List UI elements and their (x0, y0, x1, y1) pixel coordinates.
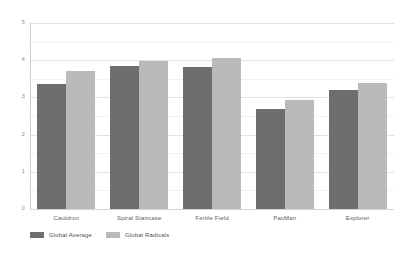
x-axis-line (30, 209, 394, 210)
legend-swatch-icon (106, 232, 120, 238)
bar-group: PacMan (248, 23, 321, 209)
bar-explorer-series-0[interactable] (329, 90, 358, 209)
x-axis-category-label: Fertile Field (195, 215, 228, 221)
bar-group: Fertile Field (176, 23, 249, 209)
x-axis-category-label: Cauldron (54, 215, 80, 221)
bar-group: Cauldron (30, 23, 103, 209)
bar-pacman-series-0[interactable] (256, 109, 285, 209)
legend-item-1[interactable]: Global Radicals (106, 232, 169, 238)
bar-explorer-series-1[interactable] (358, 83, 387, 209)
y-axis-tick-label: 3 (22, 95, 25, 101)
legend-label: Global Average (49, 232, 92, 238)
bar-group: Spiral Staircase (103, 23, 176, 209)
y-axis-tick-label: 4 (22, 57, 25, 63)
bar-fertile-field-series-1[interactable] (212, 58, 241, 209)
bar-spiral-staircase-series-1[interactable] (139, 61, 168, 209)
bars-layer: CauldronSpiral StaircaseFertile FieldPac… (30, 23, 394, 209)
chart-legend: Global AverageGlobal Radicals (30, 232, 169, 238)
bar-group: Explorer (321, 23, 394, 209)
y-axis-tick-label: 5 (22, 20, 25, 26)
bar-cauldron-series-1[interactable] (66, 71, 95, 209)
x-axis-category-label: PacMan (273, 215, 296, 221)
y-axis-tick-label: 0 (22, 206, 25, 212)
y-axis-tick-label: 1 (22, 169, 25, 175)
legend-label: Global Radicals (125, 232, 169, 238)
legend-swatch-icon (30, 232, 44, 238)
x-axis-category-label: Explorer (346, 215, 370, 221)
bar-chart: 012345 CauldronSpiral StaircaseFertile F… (0, 0, 409, 257)
bar-pacman-series-1[interactable] (285, 100, 314, 209)
bar-spiral-staircase-series-0[interactable] (110, 66, 139, 209)
legend-item-0[interactable]: Global Average (30, 232, 92, 238)
x-axis-category-label: Spiral Staircase (117, 215, 161, 221)
bar-fertile-field-series-0[interactable] (183, 67, 212, 209)
y-axis-tick-label: 2 (22, 132, 25, 138)
bar-cauldron-series-0[interactable] (37, 84, 66, 209)
